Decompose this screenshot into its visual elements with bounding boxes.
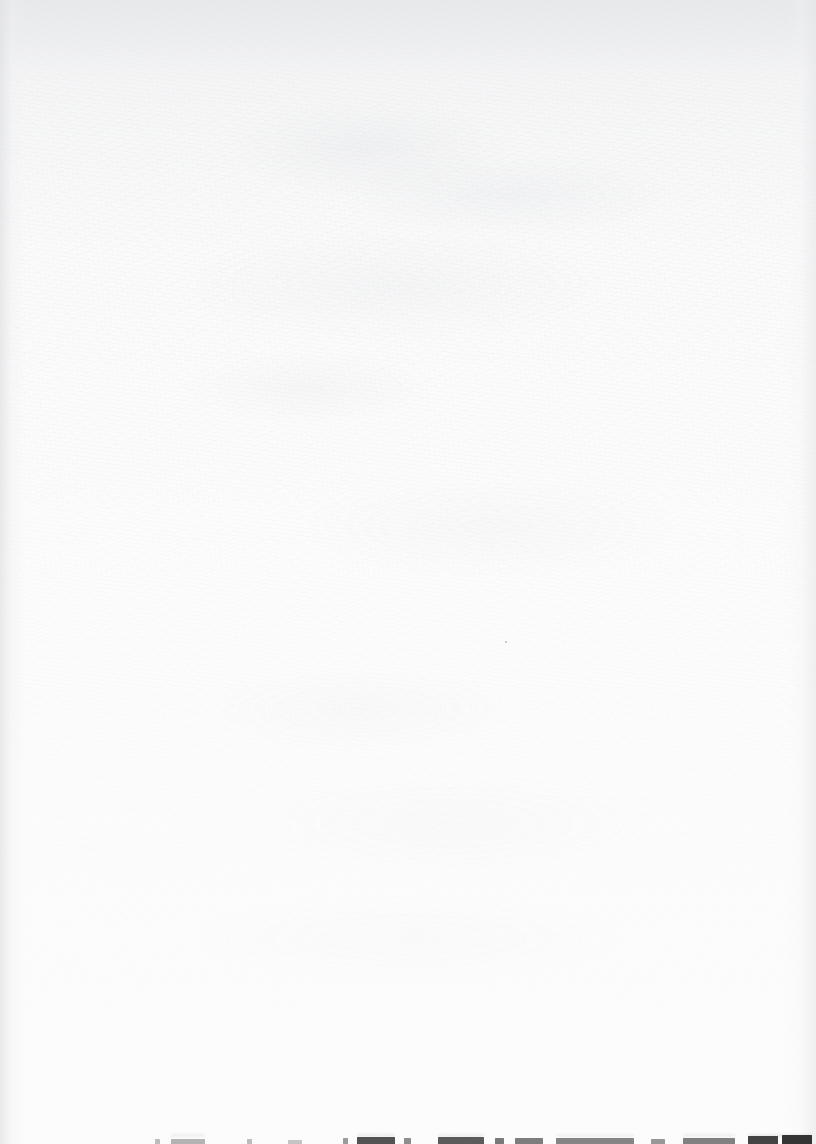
- clipped-word-fragment: [343, 1138, 348, 1144]
- clipped-word-fragment: [357, 1137, 395, 1144]
- clipped-word-fragment: [155, 1139, 160, 1144]
- clipped-word-fragment: [782, 1135, 812, 1144]
- clipped-word-fragment: [404, 1138, 411, 1144]
- clipped-word-fragment: [247, 1139, 252, 1144]
- clipped-word-fragment: [171, 1139, 205, 1144]
- clipped-word-fragment: [556, 1138, 634, 1144]
- clipped-word-fragment: [748, 1136, 778, 1144]
- scanned-page: [0, 0, 816, 1144]
- clipped-text-line: [0, 1132, 816, 1144]
- clipped-word-fragment: [288, 1140, 302, 1144]
- clipped-word-fragment: [651, 1139, 665, 1144]
- clipped-word-fragment: [515, 1138, 543, 1144]
- clipped-word-fragment: [683, 1138, 735, 1144]
- clipped-word-fragment: [438, 1137, 484, 1144]
- clipped-word-fragment: [495, 1138, 504, 1144]
- paper-background: [0, 0, 816, 1144]
